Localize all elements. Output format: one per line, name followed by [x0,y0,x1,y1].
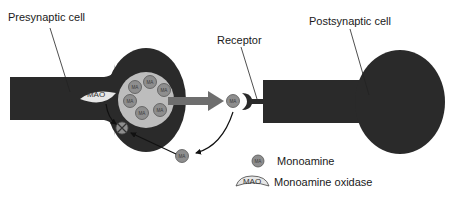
ma-molecule: MA [124,95,137,108]
synaptic-ma: MA [227,95,240,108]
synapse-diagram: MA MA MA MA MA MA MAO MA MA [0,0,453,199]
svg-text:MA: MA [127,99,135,104]
receptor [242,93,263,110]
ma-molecule: MA [154,104,167,117]
svg-text:MA: MA [230,99,238,104]
svg-text:MAO: MAO [243,177,261,186]
svg-text:MAO: MAO [87,90,105,99]
presynaptic-label: Presynaptic cell [8,11,85,23]
postsynaptic-label: Postsynaptic cell [309,15,391,27]
svg-text:MA: MA [132,85,140,90]
receptor-leader [241,47,257,99]
receptor-label: Receptor [217,34,262,46]
ma-molecule: MA [158,84,171,97]
svg-text:MA: MA [255,159,263,164]
ma-molecule: MA [136,107,149,120]
degraded-ma [116,122,128,134]
legend-item-monoamine: MA Monoamine [252,155,334,167]
svg-text:MA: MA [147,80,155,85]
postsynaptic-cell [263,50,445,154]
svg-text:MA: MA [139,111,147,116]
legend-item-mao: MAO Monoamine oxidase [236,176,372,188]
ma-molecule: MA [144,76,157,89]
svg-text:MA: MA [161,88,169,93]
legend: MA Monoamine MAO Monoamine oxidase [236,155,372,188]
svg-text:MA: MA [179,154,187,159]
reuptake-ma: MA [176,150,189,163]
ma-molecule: MA [129,81,142,94]
legend-label-mao: Monoamine oxidase [274,176,372,188]
svg-text:MA: MA [157,108,165,113]
legend-label-monoamine: Monoamine [277,155,334,167]
synaptic-return-arrow [196,112,233,153]
